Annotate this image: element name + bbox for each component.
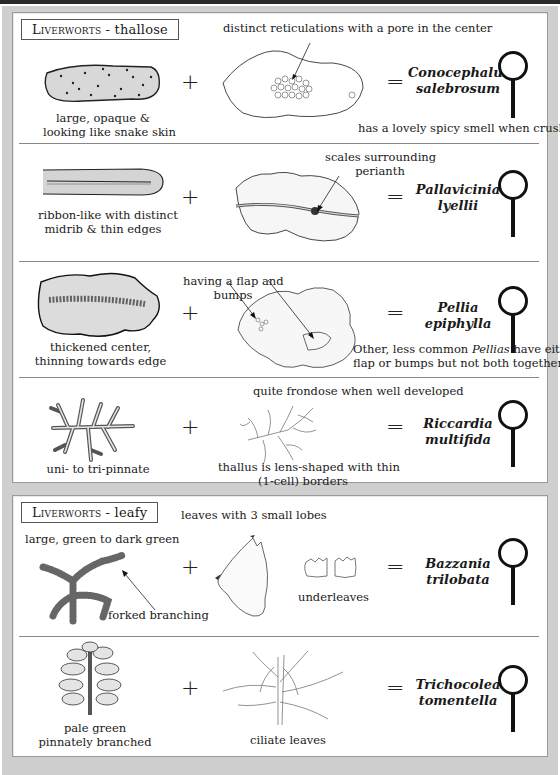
equals-sign: = [386, 554, 404, 579]
pinnate-shoot-drawing [55, 641, 125, 717]
underleaves-drawing [303, 556, 363, 582]
left-caption: uni- to tri-pinnate [38, 462, 158, 476]
mid-bottom-caption: thallus is lens-shaped with thin (1-cell… [218, 460, 388, 488]
magnifying-glass-icon[interactable] [498, 400, 528, 470]
species-name-pallavicinia: Pallavicinia lyellii [408, 182, 508, 214]
species-name-riccardia: Riccardia multifida [408, 416, 508, 448]
key-row-conocephalum: distinct reticulations with a pore in th… [13, 13, 549, 138]
mid-caption: ciliate leaves [248, 733, 328, 747]
equals-sign: = [386, 184, 404, 209]
magnifying-glass-icon[interactable] [498, 51, 528, 121]
pinnate-thallus-drawing [43, 390, 138, 470]
top-caption: leaves with 3 small lobes [181, 508, 327, 522]
underleaves-caption: underleaves [298, 590, 368, 604]
snake-skin-thallus-drawing [43, 61, 163, 106]
top-caption: quite frondose when well developed [253, 384, 464, 398]
leafy-liverworts-panel: Liverworts - leafy leaves with 3 small l… [12, 495, 548, 757]
species-name-pellia: Pellia epiphylla [408, 300, 508, 332]
plus-sign: + [181, 675, 199, 700]
top-caption: distinct reticulations with a pore in th… [223, 21, 492, 35]
flap-bumps-thallus-drawing [228, 280, 368, 375]
plus-sign: + [181, 554, 199, 579]
key-row-pellia: thickened center, thinning towards edge … [13, 262, 549, 377]
key-row-pallavicinia: ribbon-like with distinct midrib & thin … [13, 144, 549, 261]
thickened-thallus-drawing [35, 270, 165, 340]
pointer-arrow [119, 568, 159, 612]
species-name-trichocolea: Trichocolea tomentella [408, 677, 508, 709]
key-row-trichocolea: pale green pinnately branched + ciliate … [13, 637, 549, 757]
magnifying-glass-icon[interactable] [498, 170, 528, 240]
magnifying-glass-icon[interactable] [498, 538, 528, 608]
species-name-bazzania: Bazzania trilobata [408, 556, 508, 588]
magnifying-glass-icon[interactable] [498, 665, 528, 735]
key-row-riccardia: quite frondose when well developed uni- … [13, 378, 549, 483]
equals-sign: = [386, 414, 404, 439]
key-row-bazzania: leaves with 3 small lobes large, green t… [13, 496, 549, 632]
left-caption: large, opaque & looking like snake skin [43, 111, 163, 139]
left-caption: ribbon-like with distinct midrib & thin … [38, 208, 168, 236]
left-top-caption: large, green to dark green [25, 532, 165, 546]
equals-sign: = [386, 300, 404, 325]
arrow-caption: scales surrounding perianth [325, 150, 435, 178]
thallose-liverworts-panel: Liverworts - thallose distinct reticulat… [12, 12, 548, 483]
reticulated-thallus-drawing [218, 43, 368, 123]
plus-sign: + [181, 184, 199, 209]
pointer-arrow [313, 176, 343, 216]
left-caption: pale green pinnately branched [35, 721, 155, 749]
plus-sign: + [181, 300, 199, 325]
trilobed-leaf-drawing [213, 534, 273, 624]
top-rule [0, 0, 560, 4]
plus-sign: + [181, 414, 199, 439]
bottom-note: Other, less common Pellias have either a… [353, 342, 543, 370]
equals-sign: = [386, 69, 404, 94]
ribbon-thallus-drawing [41, 166, 166, 198]
equals-sign: = [386, 675, 404, 700]
ciliate-leaves-drawing [218, 647, 348, 727]
species-name-conocephalum: Conocephalum salebrosum [408, 65, 508, 97]
bottom-note: has a lovely spicy smell when crushed [358, 121, 538, 135]
left-caption: thickened center, thinning towards edge [33, 340, 168, 368]
plus-sign: + [181, 69, 199, 94]
